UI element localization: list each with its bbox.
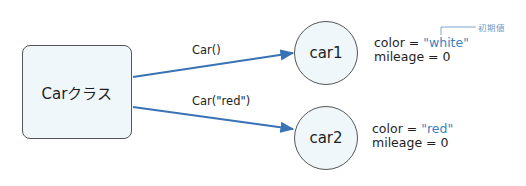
attr-value: 0 <box>441 135 449 150</box>
attribute-row: color = "white" <box>374 36 469 50</box>
edge-label-car1: Car() <box>192 43 221 57</box>
arrow-car2 <box>133 107 293 129</box>
attribute-row: color = "red" <box>372 122 453 136</box>
annotation-bracket <box>441 27 476 35</box>
attr-key: color <box>372 121 403 136</box>
car2-attributes: color = "red" mileage = 0 <box>372 122 453 150</box>
attr-op: = <box>428 49 438 64</box>
attribute-row: mileage = 0 <box>372 136 453 150</box>
attribute-row: mileage = 0 <box>374 50 469 64</box>
car1-attributes: color = "white" mileage = 0 <box>374 36 469 64</box>
attr-key: mileage <box>372 135 422 150</box>
attr-value: 0 <box>443 49 451 64</box>
instance-name: car1 <box>309 44 342 62</box>
attr-value: "white" <box>423 35 469 50</box>
car-class-node: Carクラス <box>22 45 132 139</box>
attr-key: color <box>374 35 405 50</box>
instance-node-car2: car2 <box>294 106 358 170</box>
annotation-label: 初期値 <box>478 21 505 33</box>
attr-key: mileage <box>374 49 424 64</box>
edge-label-car2: Car("red") <box>192 94 250 108</box>
class-node-label: Carクラス <box>42 82 113 103</box>
attr-op: = <box>407 121 417 136</box>
instance-name: car2 <box>309 129 342 147</box>
attr-value: "red" <box>421 121 453 136</box>
instance-node-car1: car1 <box>294 21 358 85</box>
attr-op: = <box>426 135 436 150</box>
attr-op: = <box>409 35 419 50</box>
